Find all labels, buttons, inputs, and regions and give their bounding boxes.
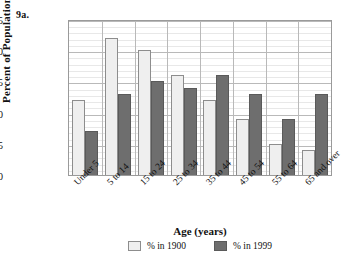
bar-group — [266, 21, 299, 175]
y-axis-tick-label: 15 — [0, 77, 3, 88]
x-axis-tick-cell: 65 and over — [299, 178, 332, 226]
y-axis-tick-label: 25 — [0, 15, 3, 26]
plot-area — [68, 20, 332, 176]
bar-group — [135, 21, 168, 175]
bar[interactable] — [138, 50, 151, 175]
bar-group — [69, 21, 102, 175]
legend-swatch — [214, 241, 227, 251]
bar-group — [233, 21, 266, 175]
legend-label: % in 1900 — [147, 241, 186, 251]
y-axis-tick-label: 20 — [0, 46, 3, 57]
bar-series-container — [69, 21, 331, 175]
legend-item[interactable]: % in 1900 — [128, 241, 186, 251]
x-axis-tick-cell: 15 to 24 — [134, 178, 167, 226]
legend-label: % in 1999 — [233, 241, 272, 251]
legend-item[interactable]: % in 1999 — [214, 241, 272, 251]
bar[interactable] — [72, 100, 85, 175]
bar[interactable] — [105, 38, 118, 175]
bar-group — [167, 21, 200, 175]
x-axis-tick-cell: Under 5 — [68, 178, 101, 226]
y-axis-tick-label: 5 — [0, 139, 3, 150]
bar-group — [102, 21, 135, 175]
x-axis-tick-cell: 5 to 14 — [101, 178, 134, 226]
x-axis-tick-cell: 55 to 64 — [266, 178, 299, 226]
bar[interactable] — [171, 75, 184, 175]
y-axis-tick-label: 10 — [0, 108, 3, 119]
bar[interactable] — [203, 100, 216, 175]
bar-group — [298, 21, 331, 175]
legend-swatch — [128, 241, 141, 251]
legend: % in 1900% in 1999 — [68, 241, 332, 251]
x-axis-tick-labels: Under 55 to 1415 to 2425 to 3435 to 4445… — [68, 178, 332, 226]
x-axis-title: Age (years) — [68, 225, 332, 237]
bar-group — [200, 21, 233, 175]
x-axis-tick-cell: 45 to 54 — [233, 178, 266, 226]
x-axis-tick-cell: 35 to 44 — [200, 178, 233, 226]
y-axis-tick-label: 0 — [0, 171, 3, 182]
bar[interactable] — [236, 119, 249, 175]
figure-label: 9a. — [16, 9, 29, 20]
x-axis-tick-cell: 25 to 34 — [167, 178, 200, 226]
